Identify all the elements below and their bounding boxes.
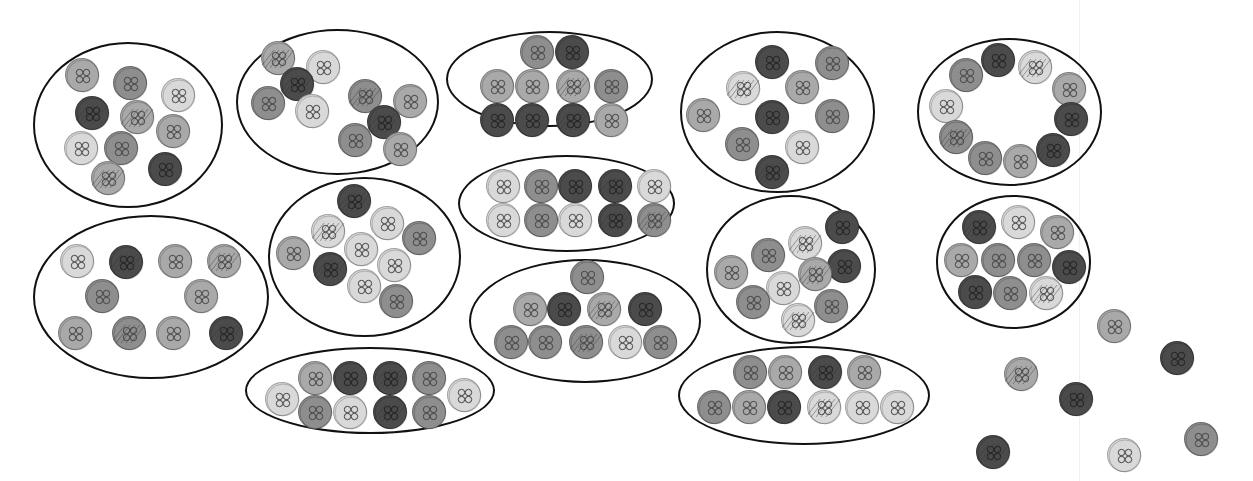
button-icon — [298, 395, 332, 429]
button-icon — [637, 203, 671, 237]
button-icon — [767, 390, 801, 424]
button-icon — [958, 275, 992, 309]
button-icon — [766, 271, 800, 305]
button-icon — [570, 260, 604, 294]
button-icon — [1004, 357, 1038, 391]
button-icon — [1184, 422, 1218, 456]
button-icon — [556, 69, 590, 103]
button-icon — [412, 395, 446, 429]
button-icon — [337, 184, 371, 218]
button-icon — [815, 46, 849, 80]
button-icon — [333, 395, 367, 429]
button-icon — [755, 155, 789, 189]
button-icon — [486, 203, 520, 237]
button-icon — [976, 435, 1010, 469]
button-icon — [311, 214, 345, 248]
button-icon — [65, 58, 99, 92]
button-icon — [788, 226, 822, 260]
button-icon — [555, 35, 589, 69]
button-icon — [112, 316, 146, 350]
button-icon — [276, 236, 310, 270]
button-icon — [968, 141, 1002, 175]
group-oval — [33, 215, 269, 379]
button-icon — [1097, 309, 1131, 343]
button-icon — [347, 269, 381, 303]
button-icon — [815, 99, 849, 133]
button-icon — [944, 243, 978, 277]
button-icon — [265, 382, 299, 416]
button-icon — [643, 325, 677, 359]
button-icon — [520, 35, 554, 69]
button-icon — [480, 69, 514, 103]
button-icon — [75, 96, 109, 130]
button-icon — [156, 114, 190, 148]
button-icon — [598, 203, 632, 237]
button-icon — [1052, 72, 1086, 106]
button-icon — [1059, 382, 1093, 416]
button-icon — [104, 131, 138, 165]
button-icon — [598, 169, 632, 203]
button-icon — [486, 169, 520, 203]
button-icon — [785, 130, 819, 164]
button-icon — [587, 292, 621, 326]
button-icon — [1054, 102, 1088, 136]
button-icon — [184, 279, 218, 313]
button-icon — [1036, 133, 1070, 167]
button-icon — [1160, 341, 1194, 375]
button-icon — [569, 325, 603, 359]
button-icon — [113, 66, 147, 100]
button-icon — [814, 289, 848, 323]
button-sorting-worksheet — [0, 0, 1253, 481]
button-icon — [1003, 144, 1037, 178]
button-icon — [733, 355, 767, 389]
button-icon — [109, 245, 143, 279]
button-icon — [298, 361, 332, 395]
button-icon — [547, 292, 581, 326]
button-icon — [847, 355, 881, 389]
button-icon — [686, 98, 720, 132]
button-icon — [494, 325, 528, 359]
button-icon — [373, 361, 407, 395]
button-icon — [60, 244, 94, 278]
button-icon — [480, 103, 514, 137]
button-icon — [736, 285, 770, 319]
button-icon — [594, 69, 628, 103]
button-icon — [85, 279, 119, 313]
button-icon — [344, 232, 378, 266]
button-icon — [333, 361, 367, 395]
button-icon — [447, 378, 481, 412]
button-icon — [594, 103, 628, 137]
button-icon — [732, 390, 766, 424]
button-icon — [64, 131, 98, 165]
button-icon — [962, 210, 996, 244]
button-icon — [825, 210, 859, 244]
button-icon — [412, 361, 446, 395]
button-icon — [845, 390, 879, 424]
button-icon — [58, 316, 92, 350]
button-icon — [383, 132, 417, 166]
button-icon — [637, 169, 671, 203]
button-icon — [949, 58, 983, 92]
button-icon — [755, 100, 789, 134]
button-icon — [768, 355, 802, 389]
button-icon — [295, 94, 329, 128]
button-icon — [1107, 438, 1141, 472]
button-icon — [158, 244, 192, 278]
button-icon — [608, 325, 642, 359]
button-icon — [313, 252, 347, 286]
button-icon — [981, 243, 1015, 277]
button-icon — [808, 355, 842, 389]
button-icon — [156, 316, 190, 350]
button-icon — [251, 86, 285, 120]
button-icon — [981, 43, 1015, 77]
button-icon — [725, 127, 759, 161]
button-icon — [1029, 276, 1063, 310]
button-icon — [161, 78, 195, 112]
button-icon — [513, 292, 547, 326]
button-icon — [91, 161, 125, 195]
button-icon — [628, 292, 662, 326]
button-icon — [524, 169, 558, 203]
button-icon — [807, 390, 841, 424]
button-icon — [1017, 243, 1051, 277]
button-icon — [338, 123, 372, 157]
